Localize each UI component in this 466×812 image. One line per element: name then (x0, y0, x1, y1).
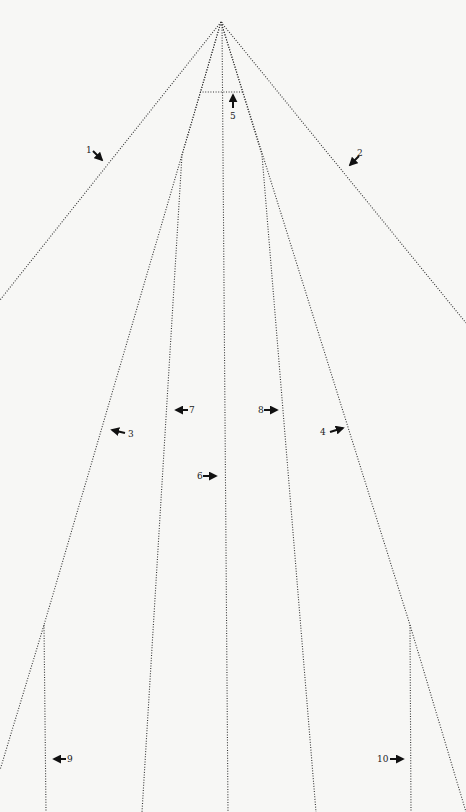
callout-label-1: 1 (86, 145, 92, 155)
dotted-line-7 (142, 22, 221, 812)
dotted-line-2 (221, 22, 466, 323)
pattern-diagram (0, 0, 466, 812)
callout-label-5: 5 (230, 111, 236, 121)
callout-label-3: 3 (128, 429, 134, 439)
callout-label-4: 4 (320, 427, 326, 437)
dotted-line-9 (44, 625, 46, 812)
dotted-line-4 (221, 22, 466, 812)
callout-label-7: 7 (189, 405, 195, 415)
dotted-line-3 (0, 22, 221, 770)
arrow-icon (112, 430, 125, 433)
callout-label-2: 2 (357, 148, 363, 158)
callout-label-8: 8 (258, 405, 264, 415)
dotted-lines (0, 22, 466, 812)
dotted-line-10 (410, 625, 411, 812)
dotted-line-6 (222, 22, 228, 812)
arrow-icon (93, 151, 102, 160)
arrow-icon (330, 428, 343, 432)
callout-label-9: 9 (67, 754, 73, 764)
dotted-line-1 (0, 22, 221, 300)
callout-arrows (54, 95, 403, 759)
dotted-line-8 (221, 22, 316, 812)
callout-label-6: 6 (197, 471, 203, 481)
callout-label-10: 10 (377, 754, 388, 764)
